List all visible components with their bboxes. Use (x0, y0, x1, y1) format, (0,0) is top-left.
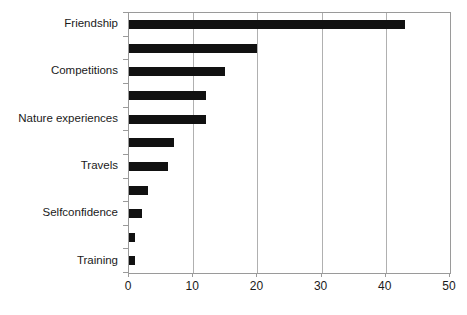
bar-band (129, 226, 450, 250)
bar-4 (129, 91, 206, 100)
bar-10 (129, 233, 135, 242)
x-axis-tick-label-20: 20 (236, 279, 276, 293)
bar-8 (129, 186, 148, 195)
x-axis-tick-label-0: 0 (108, 279, 148, 293)
x-axis-tick (449, 273, 450, 277)
bar-band (129, 60, 450, 84)
x-axis-tick (192, 273, 193, 277)
x-axis: 0 10 20 30 40 50 (128, 273, 450, 303)
x-axis-tick-label-40: 40 (365, 279, 405, 293)
plot-area (128, 12, 451, 274)
bar-band (129, 131, 450, 155)
bar-6 (129, 138, 174, 147)
bar-band (129, 249, 450, 273)
bar-band (129, 108, 450, 132)
x-axis-tick-label-30: 30 (301, 279, 341, 293)
x-axis-tick-label-50: 50 (429, 279, 467, 293)
x-axis-tick (385, 273, 386, 277)
bar-nature-experiences (129, 115, 206, 124)
bar-band (129, 155, 450, 179)
bar-training (129, 256, 135, 265)
y-axis-ticks (0, 12, 130, 273)
x-axis-tick (321, 273, 322, 277)
bar-band (129, 13, 450, 37)
bar-2 (129, 44, 257, 53)
x-axis-tick-label-10: 10 (172, 279, 212, 293)
bar-travels (129, 162, 168, 171)
x-axis-tick (128, 273, 129, 277)
x-axis-tick (256, 273, 257, 277)
bar-competitions (129, 67, 225, 76)
bar-band (129, 179, 450, 203)
bar-band (129, 84, 450, 108)
bar-chart: Friendship Competitions Nature experienc… (0, 0, 467, 315)
bar-selfconfidence (129, 209, 142, 218)
bar-band (129, 202, 450, 226)
bar-band (129, 37, 450, 61)
bar-friendship (129, 20, 405, 29)
